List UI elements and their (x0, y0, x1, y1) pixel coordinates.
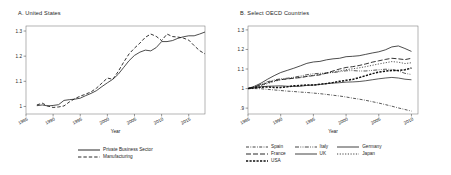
legend-key-manufacturing (78, 154, 100, 160)
x-tick-label: 1990 (272, 116, 284, 125)
legend-item: Japan (337, 150, 381, 157)
y-tick-label: 1 (19, 104, 22, 109)
plot-frame (26, 26, 205, 114)
y-tick-label: 1.2 (238, 47, 245, 52)
y-tick-label: 1.2 (16, 54, 23, 59)
series-spain (248, 89, 411, 111)
legend-label: USA (271, 158, 281, 164)
legend-label: Spain (271, 144, 283, 150)
x-tick-label: 2015 (180, 116, 192, 125)
x-tick-label: 2010 (403, 116, 415, 125)
panel-b-plot: .911.11.21.3198519901995200020052010Year (222, 18, 451, 158)
legend-label: Manufacturing (103, 154, 133, 160)
y-tick-label: .9 (240, 106, 244, 111)
x-tick-label: 1995 (72, 116, 84, 125)
legend-item: Italy (295, 143, 329, 150)
y-tick-label: 1.3 (238, 28, 245, 33)
legend-key-usa (246, 158, 268, 164)
x-tick-label: 1985 (17, 116, 29, 125)
legend-item: Spain (246, 143, 286, 150)
legend-key-germany (337, 144, 359, 150)
x-tick-label: 1985 (239, 116, 251, 125)
legend-label: Private Business Sector (103, 147, 153, 153)
legend-label: France (271, 151, 286, 157)
x-tick-label: 1990 (44, 116, 56, 125)
legend-column-3: Germany Japan (337, 143, 381, 164)
y-tick-label: 1.1 (16, 79, 23, 84)
series-private-business-sector (37, 32, 205, 106)
legend-key-italy (295, 144, 317, 150)
legend-label: Germany (362, 144, 381, 150)
legend-label: UK (320, 151, 327, 157)
legend-item: UK (295, 150, 329, 157)
series-usa (248, 68, 411, 89)
x-axis-title: Year (328, 129, 338, 134)
x-tick-label: 2005 (126, 116, 138, 125)
legend-item: USA (246, 157, 286, 164)
legend-item: France (246, 150, 286, 157)
panel-a-plot: 11.11.21.31985199019952000200520102015Ye… (0, 18, 226, 158)
panel-a-title: A. United States (18, 10, 61, 16)
plot-frame (248, 26, 418, 114)
x-tick-label: 2005 (370, 116, 382, 125)
x-tick-label: 2010 (153, 116, 165, 125)
x-axis-title: Year (111, 129, 121, 134)
legend-label: Italy (320, 144, 329, 150)
legend-item: Germany (337, 143, 381, 150)
legend-item: Manufacturing (78, 153, 153, 160)
panel-a-legend: Private Business Sector Manufacturing (78, 146, 153, 160)
legend-key-japan (337, 151, 359, 157)
x-tick-label: 1995 (305, 116, 317, 125)
legend-label: Japan (362, 151, 375, 157)
figure-container: A. United States 11.11.21.31985199019952… (0, 0, 451, 175)
legend-item: Private Business Sector (78, 146, 153, 153)
series-italy (248, 69, 411, 88)
y-tick-label: 1.3 (16, 29, 23, 34)
legend-key-france (246, 151, 268, 157)
y-tick-label: 1.1 (238, 67, 245, 72)
x-tick-label: 2000 (99, 116, 111, 125)
legend-key-uk (295, 151, 317, 157)
y-tick-label: 1 (241, 86, 244, 91)
x-tick-label: 2000 (337, 116, 349, 125)
legend-column-1: Spain France USA (246, 143, 286, 164)
legend-key-private-business-sector (78, 147, 100, 153)
panel-b-title: B. Select OECD Countries (240, 10, 309, 16)
series-japan (248, 62, 411, 89)
panel-b-legend: Spain France USA Italy (246, 143, 381, 164)
legend-column-2: Italy UK (295, 143, 329, 164)
legend-key-spain (246, 144, 268, 150)
